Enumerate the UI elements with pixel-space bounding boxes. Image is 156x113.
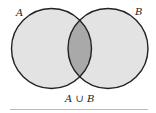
set-a-label: A	[16, 7, 23, 18]
caption: A ∪ B	[65, 93, 94, 104]
set-b-label: B	[135, 6, 142, 17]
